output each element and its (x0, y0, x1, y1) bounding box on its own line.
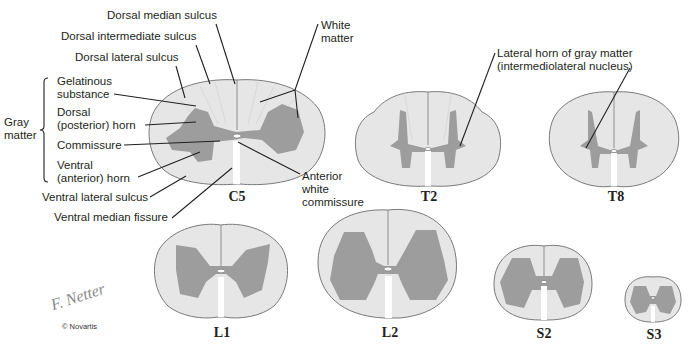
label-anterior-white-commissure: Anterior white commissure (302, 170, 364, 209)
label-white-matter-line1: White (321, 19, 354, 32)
label-dorsal-horn-line1: Dorsal (57, 106, 136, 119)
label-dorsal-median-sulcus: Dorsal median sulcus (107, 9, 217, 22)
section-t8 (549, 92, 678, 187)
label-gray-matter-line2: matter (4, 129, 37, 142)
label-lateral-horn-line1: Lateral horn of gray matter (497, 47, 633, 60)
label-commissure: Commissure (57, 139, 122, 152)
copyright-notice: © Novartis (62, 322, 97, 331)
label-gray-matter-line1: Gray (4, 116, 37, 129)
label-ventral-lateral-sulcus: Ventral lateral sulcus (42, 191, 148, 204)
label-white-matter-line2: matter (321, 32, 354, 45)
label-awc-line3: commissure (302, 196, 364, 209)
label-gelatinous-line2: substance (57, 88, 112, 101)
segment-label-t2: T2 (421, 189, 437, 205)
section-l1 (154, 224, 287, 318)
label-awc-line1: Anterior (302, 170, 364, 183)
label-dorsal-horn-line2: (posterior) horn (57, 119, 136, 132)
label-lateral-horn: Lateral horn of gray matter (intermediol… (497, 47, 633, 73)
segment-label-s2: S2 (537, 326, 552, 342)
segment-label-s3: S3 (647, 327, 662, 343)
label-dorsal-lateral-sulcus: Dorsal lateral sulcus (75, 51, 179, 64)
section-t2 (355, 92, 500, 187)
section-s2 (494, 245, 592, 320)
label-dorsal-horn: Dorsal (posterior) horn (57, 106, 136, 132)
label-lateral-horn-line2: (intermediolateral nucleus) (497, 60, 633, 73)
label-gelatinous-line1: Gelatinous (57, 75, 112, 88)
label-dorsal-intermediate-sulcus: Dorsal intermediate sulcus (61, 30, 197, 43)
label-gray-matter: Gray matter (4, 116, 37, 142)
label-ventral-horn-line2: (anterior) horn (57, 172, 130, 185)
label-ventral-median-fissure: Ventral median fissure (54, 211, 168, 224)
segment-label-l2: L2 (382, 325, 398, 341)
segment-label-t8: T8 (608, 189, 624, 205)
section-l2 (318, 209, 457, 318)
label-white-matter: White matter (321, 19, 354, 45)
section-s3 (625, 277, 681, 322)
label-ventral-horn-line1: Ventral (57, 159, 130, 172)
label-awc-line2: white (302, 183, 364, 196)
label-ventral-horn: Ventral (anterior) horn (57, 159, 130, 185)
label-gelatinous-substance: Gelatinous substance (57, 75, 112, 101)
segment-label-l1: L1 (214, 325, 230, 341)
section-c5 (149, 80, 325, 185)
segment-label-c5: C5 (228, 189, 245, 205)
